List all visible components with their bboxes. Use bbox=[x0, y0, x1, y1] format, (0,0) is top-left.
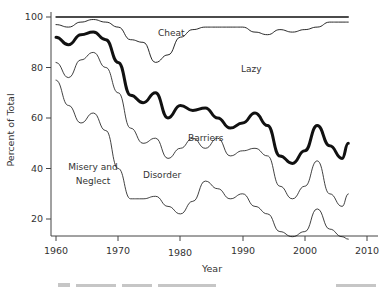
region-labels: Cheat Lazy Barriers Disorder Misery and … bbox=[68, 28, 262, 186]
y-axis bbox=[46, 12, 51, 236]
x-axis bbox=[51, 236, 378, 241]
series-disorder-misery-boundary bbox=[56, 80, 348, 239]
label-misery: Misery and bbox=[68, 162, 117, 172]
chart: 100 80 60 40 20 1960 1970 1980 1990 2000… bbox=[0, 0, 388, 287]
series-cheat-lazy-boundary bbox=[56, 20, 348, 63]
svg-text:20: 20 bbox=[31, 213, 43, 224]
caption-fragment bbox=[58, 283, 376, 287]
label-lazy: Lazy bbox=[241, 64, 262, 74]
label-cheat: Cheat bbox=[158, 28, 185, 38]
svg-text:1970: 1970 bbox=[106, 245, 130, 256]
svg-text:100: 100 bbox=[25, 11, 43, 22]
series-lazy-barriers-boundary bbox=[56, 32, 348, 163]
svg-text:60: 60 bbox=[31, 112, 43, 123]
svg-text:1980: 1980 bbox=[168, 247, 192, 258]
y-tick-labels: 100 80 60 40 20 bbox=[25, 11, 43, 224]
x-axis-label: Year bbox=[201, 263, 222, 274]
svg-text:1960: 1960 bbox=[44, 245, 68, 256]
svg-text:80: 80 bbox=[31, 62, 43, 73]
y-axis-label: Percent of Total bbox=[5, 93, 16, 166]
x-tick-labels: 1960 1970 1980 1990 2000 2010 bbox=[44, 245, 379, 258]
svg-text:40: 40 bbox=[31, 163, 43, 174]
svg-text:2010: 2010 bbox=[355, 245, 379, 256]
svg-text:1990: 1990 bbox=[231, 245, 255, 256]
series-lines bbox=[56, 17, 348, 239]
label-neglect: Neglect bbox=[76, 176, 111, 186]
label-disorder: Disorder bbox=[143, 170, 181, 180]
label-barriers: Barriers bbox=[188, 133, 224, 143]
svg-text:2000: 2000 bbox=[293, 245, 317, 256]
